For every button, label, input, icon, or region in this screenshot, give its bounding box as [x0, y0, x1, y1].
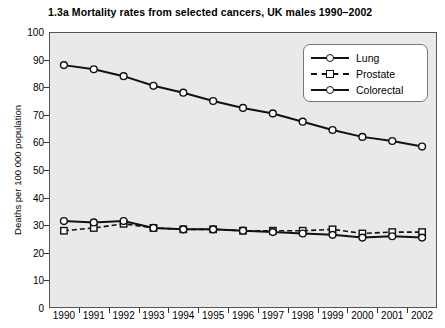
x-tick-mark: [198, 308, 199, 313]
y-tick-label: 10: [18, 275, 44, 286]
y-tick-label: 40: [18, 192, 44, 203]
y-tick-mark: [44, 87, 49, 88]
y-axis-tick-labels: 0102030405060708090100: [14, 0, 44, 328]
x-tick-mark: [288, 308, 289, 313]
legend-entry-lung: Lung: [311, 50, 421, 66]
x-tick-label: 1994: [172, 310, 194, 321]
x-tick-label: 2002: [411, 310, 433, 321]
y-tick-mark: [44, 115, 49, 116]
x-tick-mark: [347, 308, 348, 313]
y-tick-label: 30: [18, 220, 44, 231]
x-tick-mark: [109, 308, 110, 313]
x-tick-label: 1992: [112, 310, 134, 321]
x-tick-mark: [168, 308, 169, 313]
legend-label-lung: Lung: [356, 52, 379, 64]
y-tick-label: 100: [18, 27, 44, 38]
legend-line-sample-colorectal: [311, 84, 349, 96]
circle-marker-icon: [326, 54, 334, 62]
y-tick-label: 20: [18, 247, 44, 258]
x-tick-mark: [139, 308, 140, 313]
y-tick-label: 80: [18, 82, 44, 93]
y-tick-mark: [44, 253, 49, 254]
y-tick-label: 90: [18, 54, 44, 65]
square-marker-icon: [326, 70, 334, 78]
legend-line-sample-prostate: [311, 68, 349, 80]
y-tick-mark: [44, 142, 49, 143]
y-tick-label: 70: [18, 109, 44, 120]
legend-entry-colorectal: Colorectal: [311, 82, 421, 98]
y-tick-mark: [44, 225, 49, 226]
y-tick-label: 60: [18, 137, 44, 148]
x-tick-label: 1998: [292, 310, 314, 321]
y-tick-mark: [44, 280, 49, 281]
legend-entry-prostate: Prostate: [311, 66, 421, 82]
x-tick-label: 1993: [142, 310, 164, 321]
x-tick-label: 1990: [53, 310, 75, 321]
y-tick-mark: [44, 198, 49, 199]
y-tick-mark: [44, 170, 49, 171]
x-tick-mark: [318, 308, 319, 313]
y-tick-label: 50: [18, 165, 44, 176]
x-tick-mark: [377, 308, 378, 313]
x-tick-mark: [79, 308, 80, 313]
x-tick-mark: [407, 308, 408, 313]
x-tick-label: 2000: [351, 310, 373, 321]
x-tick-label: 1991: [83, 310, 105, 321]
chart-figure: 1.3a Mortality rates from selected cance…: [0, 0, 445, 328]
x-tick-label: 1996: [232, 310, 254, 321]
x-tick-label: 1999: [321, 310, 343, 321]
y-tick-mark: [44, 60, 49, 61]
legend-label-colorectal: Colorectal: [356, 84, 403, 96]
x-tick-label: 1997: [262, 310, 284, 321]
chart-title: 1.3a Mortality rates from selected cance…: [48, 6, 372, 18]
x-tick-mark: [228, 308, 229, 313]
x-tick-label: 2001: [381, 310, 403, 321]
x-tick-mark: [258, 308, 259, 313]
circle-marker-icon: [326, 86, 334, 94]
legend-line-sample-lung: [311, 52, 349, 64]
legend-label-prostate: Prostate: [356, 68, 395, 80]
x-tick-label: 1995: [202, 310, 224, 321]
chart-legend: Lung Prostate Colorectal: [303, 44, 428, 102]
